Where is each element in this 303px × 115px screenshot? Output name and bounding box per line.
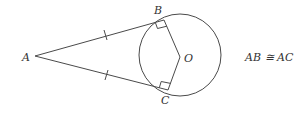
circle-o — [139, 14, 221, 96]
tangent-segments-diagram: A B C O AB ≅ AC — [0, 0, 303, 115]
radius-ob — [164, 20, 180, 57]
radius-oc — [168, 57, 180, 90]
segment-ab — [35, 20, 164, 56]
label-b: B — [153, 4, 162, 17]
congruence-statement: AB ≅ AC — [244, 51, 294, 64]
label-c: C — [161, 94, 170, 107]
tick-mark-ab — [104, 30, 107, 40]
segment-ac — [35, 56, 168, 90]
label-a: A — [21, 51, 30, 64]
label-o: O — [184, 52, 193, 65]
